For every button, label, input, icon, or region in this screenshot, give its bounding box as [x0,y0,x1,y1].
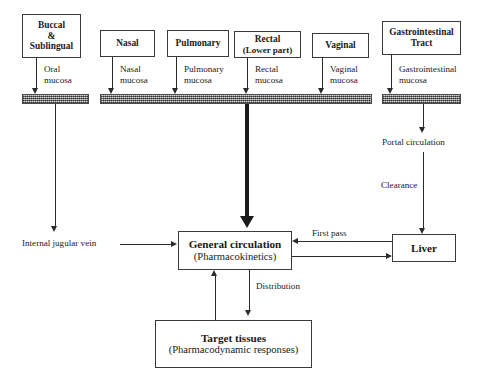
arrowhead-first-pass-icon [292,238,298,244]
node-git-line2: Tract [411,38,433,49]
arrowhead-portal-icon [419,127,425,133]
node-buccal-line1: Buccal [38,20,65,31]
diagram-canvas: Buccal & Sublingual Nasal Pulmonary Rect… [0,0,478,388]
edge-label-oral-mucosa-line2: mucosa [44,75,72,86]
arrowhead-distribution-up-icon [211,270,217,276]
node-target-tissues-subtitle: (Pharmacodynamic responses) [169,344,299,356]
edge-label-distribution: Distribution [256,281,300,292]
edge-label-pulmonary-mucosa: Pulmonary mucosa [184,64,224,86]
node-nasal: Nasal [100,30,155,57]
edge-portal-to-liver [423,152,424,230]
edge-label-oral-mucosa: Oral mucosa [44,64,72,86]
node-target-tissues: Target tissues (Pharmacodynamic response… [155,320,312,368]
arrowhead-distribution-down-icon [245,310,251,316]
arrowhead-jugular-to-general-icon [171,241,177,247]
node-vaginal-label: Vaginal [325,40,355,51]
edge-label-pulmonary-mucosa-line2: mucosa [184,75,224,86]
edge-label-gi-mucosa-line2: mucosa [399,75,457,86]
edge-label-gi-mucosa-line1: Gastrointestinal [399,64,457,75]
arrowhead-jugular-icon [51,226,57,232]
node-general-circulation-title: General circulation [189,238,282,251]
edge-label-first-pass: First pass [312,228,347,239]
node-gastrointestinal-tract: Gastrointestinal Tract [382,21,461,55]
mucosa-bar-systemic [100,94,372,104]
node-buccal-sublingual: Buccal & Sublingual [22,14,81,58]
edge-label-nasal-mucosa: Nasal mucosa [120,64,148,86]
edge-label-vaginal-mucosa-line1: Vaginal [330,64,358,75]
node-liver-title: Liver [411,242,437,255]
mucosa-bar-oral [22,94,89,104]
edge-systemic-mucosa-to-general-circulation [245,104,249,218]
edge-label-portal-circulation: Portal circulation [382,137,445,148]
node-target-tissues-title: Target tissues [201,332,266,345]
node-general-circulation-subtitle: (Pharmacokinetics) [194,251,276,263]
node-rectal-line2: (Lower part) [243,45,293,55]
edge-label-rectal-mucosa-line1: Rectal [255,64,283,75]
arrowhead-systemic-to-general-icon [240,216,254,228]
edge-label-oral-mucosa-line1: Oral [44,64,72,75]
node-buccal-line2: & [48,31,56,42]
edge-buccal-to-oral-mucosa [36,58,37,90]
node-pulmonary: Pulmonary [167,30,229,57]
node-git-line1: Gastrointestinal [389,27,453,38]
node-general-circulation: General circulation (Pharmacokinetics) [178,231,292,270]
edge-label-pulmonary-mucosa-line1: Pulmonary [184,64,224,75]
edge-nasal-to-nasal-mucosa [112,57,113,90]
edge-label-nasal-mucosa-line1: Nasal [120,64,148,75]
edge-general-circulation-to-target-tissues [249,270,250,312]
edge-jugular-to-general-circulation [120,244,172,245]
edge-git-to-gi-mucosa [391,55,392,90]
node-vaginal: Vaginal [312,33,369,58]
edge-target-tissues-to-general-circulation [215,276,216,320]
edge-label-gi-mucosa: Gastrointestinal mucosa [399,64,457,86]
edge-label-internal-jugular-vein: Internal jugular vein [22,238,96,249]
mucosa-bar-gastrointestinal [382,94,461,104]
edge-oral-mucosa-to-jugular [55,104,56,228]
edge-label-vaginal-mucosa-line2: mucosa [330,75,358,86]
edge-liver-to-general-circulation-first-pass [297,241,392,242]
edge-label-vaginal-mucosa: Vaginal mucosa [330,64,358,86]
node-liver: Liver [392,234,456,262]
edge-pulmonary-to-pulmonary-mucosa [176,57,177,90]
node-rectal: Rectal (Lower part) [234,31,301,58]
edge-general-circulation-to-liver [292,256,387,257]
edge-label-nasal-mucosa-line2: mucosa [120,75,148,86]
edge-label-clearance: Clearance [381,180,417,191]
node-rectal-line1: Rectal [255,34,281,45]
edge-label-rectal-mucosa-line2: mucosa [255,75,283,86]
node-nasal-label: Nasal [116,38,138,49]
edge-rectal-to-rectal-mucosa [247,58,248,90]
edge-label-rectal-mucosa: Rectal mucosa [255,64,283,86]
node-buccal-line3: Sublingual [30,41,73,52]
node-pulmonary-label: Pulmonary [176,38,221,49]
edge-vaginal-to-vaginal-mucosa [322,58,323,90]
